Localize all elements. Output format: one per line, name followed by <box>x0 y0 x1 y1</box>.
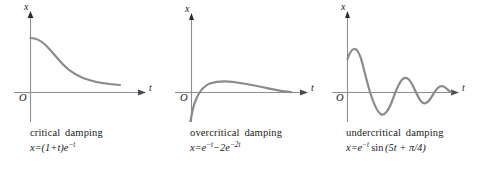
caption-formula: x=e−tsin(5t + π/4) <box>346 141 482 155</box>
formula-term2-base: 2e <box>220 142 230 153</box>
plot-overcritical-damping <box>160 0 320 122</box>
curve-overcritical-damping <box>189 81 291 122</box>
curve-undercritical-damping <box>348 49 452 115</box>
caption-undercritical-damping: undercritical damping x=e−tsin(5t + π/4) <box>346 126 482 156</box>
caption-formula: x=e−t−2e−2t <box>190 141 322 155</box>
formula-lhs: x <box>346 142 351 153</box>
y-axis-label: x <box>185 3 189 14</box>
y-axis-label: x <box>24 1 28 12</box>
formula-equals: = <box>35 142 42 153</box>
y-axis-arrowhead <box>345 11 350 18</box>
panel-undercritical-damping: x t O undercritical damping x=e−tsin(5t … <box>320 0 482 180</box>
caption-formula: x=(1+t)e−t <box>30 141 162 155</box>
caption-title: undercritical damping <box>346 126 482 140</box>
origin-label: O <box>180 92 188 103</box>
formula-lhs: x <box>190 142 195 153</box>
curve-critical-damping <box>31 38 121 85</box>
formula-trig: sin <box>369 142 383 153</box>
t-axis-label: t <box>311 82 314 93</box>
y-axis-arrowhead <box>189 13 194 20</box>
panel-critical-damping: x t O critical damping x=(1+t)e−t <box>0 0 160 180</box>
formula-body: (1+t)e <box>42 142 69 153</box>
caption-overcritical-damping: overcritical damping x=e−t−2e−2t <box>190 126 322 156</box>
formula-term2-exponent: −2t <box>230 141 240 149</box>
formula-lhs: x <box>30 142 35 153</box>
plot-undercritical-damping <box>320 0 480 122</box>
t-axis-arrowhead <box>300 89 308 95</box>
origin-label: O <box>19 92 27 103</box>
formula-equals: = <box>195 142 202 153</box>
t-axis-label: t <box>462 82 465 93</box>
caption-title: overcritical damping <box>190 126 322 140</box>
formula-equals: = <box>351 142 358 153</box>
t-axis-label: t <box>149 82 152 93</box>
caption-title: critical damping <box>30 126 162 140</box>
origin-label: O <box>336 92 344 103</box>
plot-critical-damping <box>0 0 160 122</box>
formula-operator: − <box>213 142 220 153</box>
formula-exponent: −t <box>69 141 76 149</box>
panel-overcritical-damping: x t O overcritical damping x=e−t−2e−2t <box>160 0 320 180</box>
y-axis-label: x <box>341 1 345 12</box>
formula-argument: (5t + π/4) <box>383 142 425 153</box>
caption-critical-damping: critical damping x=(1+t)e−t <box>30 126 162 156</box>
t-axis-arrowhead <box>138 89 146 95</box>
y-axis-arrowhead <box>28 11 34 18</box>
damping-figure: x t O critical damping x=(1+t)e−t x t O … <box>0 0 482 180</box>
